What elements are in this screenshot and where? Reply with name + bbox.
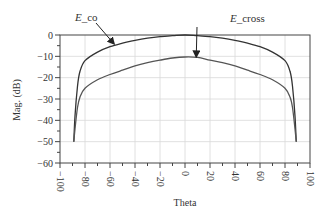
y-tick-label: −50 — [37, 136, 53, 147]
y-tick-label: −30 — [37, 94, 53, 105]
x-tick-label: −100 — [55, 171, 66, 192]
y-tick-label: −60 — [37, 158, 53, 169]
x-tick-label: 100 — [305, 171, 316, 186]
x-tick-label: 0 — [180, 171, 191, 176]
x-tick-label: 20 — [205, 171, 216, 181]
chart: −100−80−60−40−20020406080100 0−10−20−30−… — [0, 0, 330, 218]
grid-lines — [60, 35, 310, 163]
y-tick-label: −10 — [37, 51, 53, 62]
x-tick-label: −60 — [105, 171, 116, 187]
x-axis-label: Theta — [174, 197, 197, 208]
annotation-label: E_co — [74, 11, 98, 23]
y-axis-label: Mag. (dB) — [11, 79, 23, 121]
y-tick-label: 0 — [48, 30, 53, 41]
annotation-arrow-icon — [196, 27, 197, 56]
annotation-label: E_cross — [229, 12, 265, 24]
y-tick-label: −20 — [37, 72, 53, 83]
x-tick-label: 80 — [280, 171, 291, 181]
annotation-arrow-icon — [96, 23, 114, 44]
y-axis-ticks: 0−10−20−30−40−50−60 — [37, 30, 60, 169]
x-tick-label: −40 — [130, 171, 141, 187]
x-tick-label: 40 — [230, 171, 241, 181]
x-tick-label: 60 — [255, 171, 266, 181]
y-tick-label: −40 — [37, 115, 53, 126]
x-tick-label: −80 — [80, 171, 91, 187]
x-axis-ticks: −100−80−60−40−20020406080100 — [55, 163, 316, 192]
x-tick-label: −20 — [155, 171, 166, 187]
